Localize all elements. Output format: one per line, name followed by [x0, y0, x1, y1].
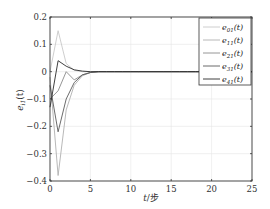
y-tick-label: 0.2 — [33, 12, 47, 22]
legend: e01(t)e11(t)e21(t)e31(t)e41(t) — [199, 18, 251, 85]
x-axis-label-unit: /步 — [147, 193, 159, 203]
y-tick-label: −0.2 — [26, 121, 47, 131]
y-tick-label: 0 — [42, 67, 47, 77]
x-tick-label: 10 — [125, 184, 136, 194]
x-axis-label: t/步 — [143, 193, 159, 203]
x-tick-label: 15 — [166, 184, 177, 194]
y-tick-label: −0.1 — [26, 94, 47, 104]
x-tick-label: 25 — [247, 184, 258, 194]
y-tick-label: 0.1 — [33, 39, 47, 49]
y-tick-label: −0.3 — [26, 149, 47, 159]
chart: 0510152025 0.20.10−0.1−0.2−0.3−0.4 t/步 e… — [0, 0, 270, 209]
x-tick-label: 20 — [206, 184, 217, 194]
y-tick-label: −0.4 — [26, 176, 47, 186]
x-tick-label: 5 — [88, 184, 93, 194]
x-tick-label: 0 — [47, 184, 52, 194]
y-axis-label-arg: (t) — [15, 89, 25, 100]
y-axis-label: ei1(t) — [15, 89, 26, 111]
y-tick-labels: 0.20.10−0.1−0.2−0.3−0.4 — [26, 12, 47, 186]
series-line-e11t — [50, 72, 252, 176]
